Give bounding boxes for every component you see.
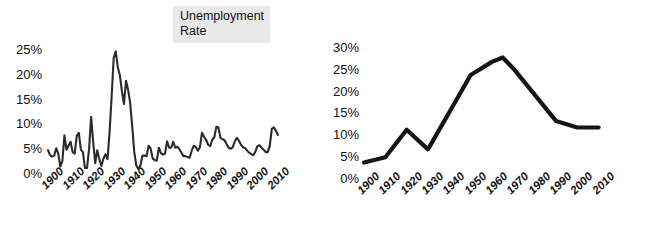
chart-panel-union-membership: Percentage of Workers Belonging to Union…	[323, 0, 647, 233]
plot-area-union-membership	[323, 0, 647, 233]
series-line-unemployment	[48, 51, 278, 169]
chart-panel-unemployment: Unemployment Rate 0%5%10%15%20%25% 19001…	[0, 0, 324, 233]
series-line-union-membership	[364, 58, 599, 163]
dual-chart-figure: Unemployment Rate 0%5%10%15%20%25% 19001…	[0, 0, 647, 233]
plot-area-unemployment	[0, 0, 324, 233]
